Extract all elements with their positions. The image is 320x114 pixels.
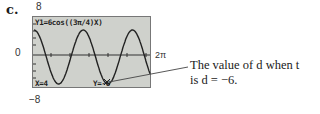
annotation-text: The value of d when t = 4 [190, 58, 300, 72]
trace-y-value: Y=-6 [93, 79, 110, 88]
annotation-line-2: is d = −6. [190, 73, 237, 88]
annotation-line-1: The value of d when t = 4 [190, 58, 300, 73]
equation-label: Y1=6cos((3π/4)X) [35, 18, 102, 27]
trace-x-value: X=4 [35, 79, 48, 88]
y-axis-ticks [33, 24, 36, 78]
